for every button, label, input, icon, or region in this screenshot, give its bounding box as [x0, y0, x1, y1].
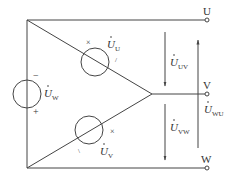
voltage-wu-label: U WU	[204, 101, 224, 118]
source-u-label: U U	[107, 36, 120, 53]
source-u-mark-x: ×	[86, 38, 91, 47]
svg-text:VW: VW	[178, 128, 190, 136]
source-w-label: U W	[44, 85, 59, 102]
branch-v	[27, 94, 152, 168]
svg-text:W: W	[52, 94, 59, 102]
svg-text:U: U	[115, 45, 120, 53]
source-v-mark-backslash: \	[78, 147, 80, 155]
delta-circuit-diagram: U V W × / U U × \ U V − + U W U UV U VW …	[0, 0, 227, 180]
svg-text:WU: WU	[212, 110, 224, 118]
branch-u	[27, 20, 152, 94]
terminal-w-label: W	[201, 153, 212, 165]
svg-text:V: V	[108, 152, 113, 160]
source-v-icon	[75, 116, 103, 144]
terminal-u-label: U	[203, 5, 211, 17]
terminal-v	[205, 92, 209, 96]
terminal-u	[205, 18, 209, 22]
dot-accent	[110, 36, 112, 38]
voltage-vw-label: U VW	[170, 119, 190, 136]
source-u-icon	[81, 48, 109, 76]
terminal-w	[205, 166, 209, 170]
terminal-v-label: V	[203, 79, 211, 91]
source-v-label: U V	[100, 143, 113, 160]
source-w-polarity-plus: +	[33, 106, 39, 117]
svg-text:UV: UV	[178, 63, 188, 71]
source-v-mark-x: ×	[110, 127, 115, 136]
source-u-mark-slash: /	[115, 56, 117, 64]
source-w-polarity-minus: −	[33, 70, 39, 81]
voltage-uv-label: U UV	[170, 54, 188, 71]
